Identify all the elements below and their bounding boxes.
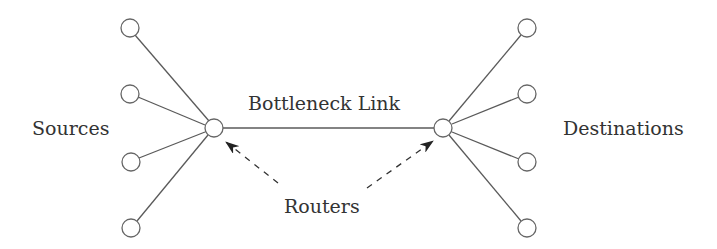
source-nodes	[121, 19, 140, 237]
destination-node-4	[518, 219, 536, 237]
destinations-label: Destinations	[563, 117, 684, 139]
edge-source-4	[137, 135, 208, 221]
routers-label: Routers	[284, 195, 360, 217]
destination-edges	[449, 35, 521, 221]
destination-nodes	[518, 19, 536, 237]
edge-destination-2	[452, 97, 519, 124]
destination-node-1	[518, 19, 536, 37]
router-left-node	[205, 119, 223, 137]
source-node-3	[122, 153, 140, 171]
sources-label: Sources	[32, 117, 109, 139]
edge-destination-1	[449, 35, 521, 121]
edge-destination-3	[452, 132, 519, 159]
bottleneck-link-label: Bottleneck Link	[248, 92, 401, 114]
network-diagram: Sources Destinations Bottleneck Link Rou…	[0, 0, 717, 249]
edge-source-2	[138, 97, 205, 125]
router-right-node	[434, 119, 452, 137]
destination-node-3	[518, 153, 536, 171]
edge-source-3	[139, 132, 205, 158]
edge-source-1	[135, 35, 209, 121]
destination-node-2	[518, 85, 536, 103]
source-edges	[135, 35, 209, 221]
edge-destination-4	[449, 135, 521, 221]
arrow-to-left-router	[226, 142, 278, 183]
source-node-1	[121, 19, 139, 37]
arrow-to-right-router	[367, 141, 433, 188]
source-node-2	[121, 85, 139, 103]
source-node-4	[122, 219, 140, 237]
router-annotation-arrows	[226, 141, 433, 188]
diagram-canvas: Sources Destinations Bottleneck Link Rou…	[0, 0, 717, 249]
